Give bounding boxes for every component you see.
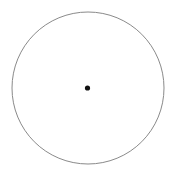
figure-canvas xyxy=(0,0,176,177)
geometry-diagram xyxy=(0,0,176,177)
center-dot xyxy=(85,85,90,90)
